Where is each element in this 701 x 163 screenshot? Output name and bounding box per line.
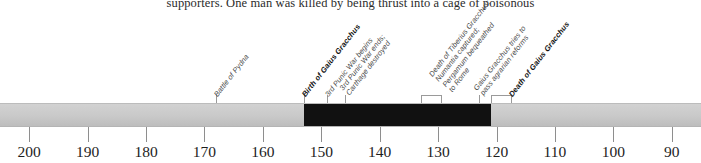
axis-year-label-190: 190 bbox=[76, 143, 99, 161]
axis-year-label-90: 90 bbox=[664, 143, 680, 161]
axis-year-label-110: 110 bbox=[544, 143, 567, 161]
axis-year-label-130: 130 bbox=[427, 143, 450, 161]
axis-tick-190 bbox=[88, 127, 89, 142]
axis-tick-90 bbox=[672, 127, 673, 142]
axis-year-label-160: 160 bbox=[251, 143, 274, 161]
axis-tick-100 bbox=[613, 127, 614, 142]
axis-year-label-150: 150 bbox=[310, 143, 333, 161]
axis-tick-200 bbox=[29, 127, 30, 142]
axis-tick-150 bbox=[321, 127, 322, 142]
axis-tick-170 bbox=[204, 127, 205, 142]
event-label-battle-of-pydna: Battle of Pydna bbox=[213, 53, 251, 99]
axis-year-label-120: 120 bbox=[485, 143, 508, 161]
axis-tick-160 bbox=[263, 127, 264, 142]
axis-year-label-170: 170 bbox=[193, 143, 216, 161]
axis-year-label-200: 200 bbox=[18, 143, 41, 161]
axis-tick-140 bbox=[380, 127, 381, 142]
timeline-axis-ticks: 20019018017016015014013012011010090 bbox=[0, 127, 701, 163]
axis-year-label-100: 100 bbox=[602, 143, 625, 161]
axis-tick-180 bbox=[146, 127, 147, 142]
event-label-line: Battle of Pydna bbox=[213, 53, 251, 99]
axis-year-label-140: 140 bbox=[368, 143, 391, 161]
axis-tick-120 bbox=[497, 127, 498, 142]
axis-year-label-180: 180 bbox=[134, 143, 157, 161]
axis-tick-110 bbox=[555, 127, 556, 142]
axis-tick-130 bbox=[438, 127, 439, 142]
